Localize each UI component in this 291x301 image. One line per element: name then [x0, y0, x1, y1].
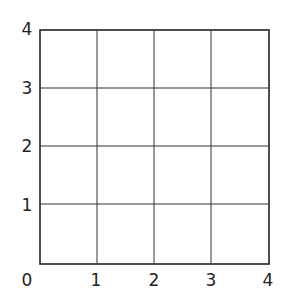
coordinate-grid [0, 0, 291, 301]
y-tick-1: 1 [22, 197, 33, 214]
y-tick-4: 4 [22, 21, 33, 38]
x-tick-1: 1 [91, 272, 102, 289]
origin-label: 0 [22, 272, 33, 289]
x-tick-3: 3 [206, 272, 217, 289]
y-tick-2: 2 [22, 138, 33, 155]
y-tick-3: 3 [22, 80, 33, 97]
x-tick-2: 2 [149, 272, 160, 289]
x-tick-4: 4 [263, 272, 274, 289]
